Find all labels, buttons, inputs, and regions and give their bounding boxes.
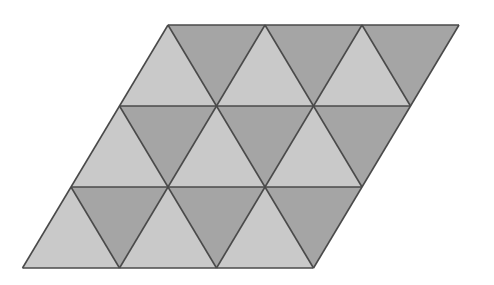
triangle-tiling-figure xyxy=(0,0,494,285)
